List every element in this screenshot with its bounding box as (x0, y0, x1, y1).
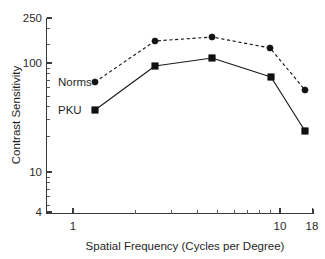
data-point-pku-1 (92, 107, 98, 113)
y-tick-label-250: 250 (23, 12, 42, 24)
series-label-pku: PKU (58, 104, 82, 116)
y-tick-label-10: 10 (29, 166, 42, 178)
data-point-norms-5 (302, 87, 308, 93)
x-axis-title: Spatial Frequency (Cycles per Degree) (86, 240, 285, 252)
y-axis (47, 18, 52, 214)
data-point-norms-1 (92, 79, 98, 85)
x-tick-label-1: 1 (70, 220, 76, 232)
data-point-pku-2 (152, 63, 158, 69)
x-tick-label-18: 18 (306, 220, 319, 232)
data-point-pku-4 (268, 74, 274, 80)
data-point-norms-3 (209, 34, 215, 40)
x-axis-ticks (73, 208, 313, 214)
data-point-norms-4 (267, 45, 273, 51)
y-axis-title: Contrast Sensitivity (10, 66, 22, 165)
series-norms-line (95, 37, 305, 90)
series-pku (92, 55, 308, 134)
y-tick-label-100: 100 (23, 57, 42, 69)
data-point-norms-2 (152, 38, 158, 44)
data-point-pku-5 (302, 128, 308, 134)
y-tick-label-4: 4 (36, 206, 43, 218)
x-axis (47, 209, 314, 214)
contrast-sensitivity-chart: 250 100 10 4 1 10 18 Spatial Frequency (… (0, 0, 325, 259)
series-label-norms: Norms (58, 76, 92, 88)
y-axis-ticks (47, 18, 52, 212)
series-pku-line (95, 58, 305, 131)
chart-figure: 250 100 10 4 1 10 18 Spatial Frequency (… (0, 0, 325, 259)
data-point-pku-3 (209, 55, 215, 61)
x-tick-label-10: 10 (274, 220, 287, 232)
